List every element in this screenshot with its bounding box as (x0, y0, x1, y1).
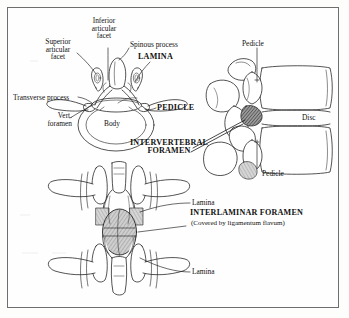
label-interlaminar-foramen-note: (Covered by ligamentum flavum) (191, 220, 285, 227)
label-intervertebral-foramen: INTERVERTEBRAL FORAMEN (126, 139, 212, 156)
label-superior-articular-facet: Superior articular facet (30, 38, 86, 61)
label-interlaminar-foramen: INTERLAMINAR FORAMEN (190, 209, 303, 217)
label-vert-foramen: Vert. foramen (26, 112, 72, 127)
figure-page: Superior articular facet Inferior articu… (0, 0, 349, 318)
label-pedicle-axial: PEDICLE (157, 104, 194, 112)
label-lamina-upper: Lamina (192, 199, 215, 207)
label-body: Body (104, 120, 120, 128)
label-spinous-process: Spinous process (130, 41, 178, 49)
label-lamina-axial: LAMINA (138, 53, 173, 61)
label-transverse-process: Transverse process (13, 94, 69, 102)
label-inferior-articular-facet: Inferior articular facet (78, 17, 130, 40)
label-pedicle-lateral-top: Pedicle (242, 40, 264, 48)
label-disc: Disc (302, 114, 316, 122)
label-pedicle-lateral-bottom: Pedicle (262, 170, 284, 178)
label-lamina-lower: Lamina (192, 268, 215, 276)
